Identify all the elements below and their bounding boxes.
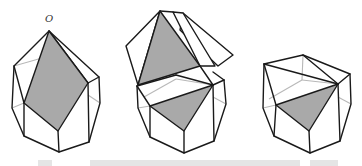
middle-polyhedron (126, 11, 233, 153)
vertex-label-o: O (45, 13, 53, 24)
truncated-caption-right (310, 160, 338, 166)
polyhedra-diagram: O (0, 0, 362, 166)
shaded-triangle-right (276, 84, 338, 131)
truncated-caption-main (90, 160, 300, 166)
left-polyhedron (12, 31, 100, 152)
right-polyhedron (263, 55, 351, 153)
truncated-caption-left (38, 160, 52, 166)
shaded-lower-triangle-middle (150, 85, 213, 131)
